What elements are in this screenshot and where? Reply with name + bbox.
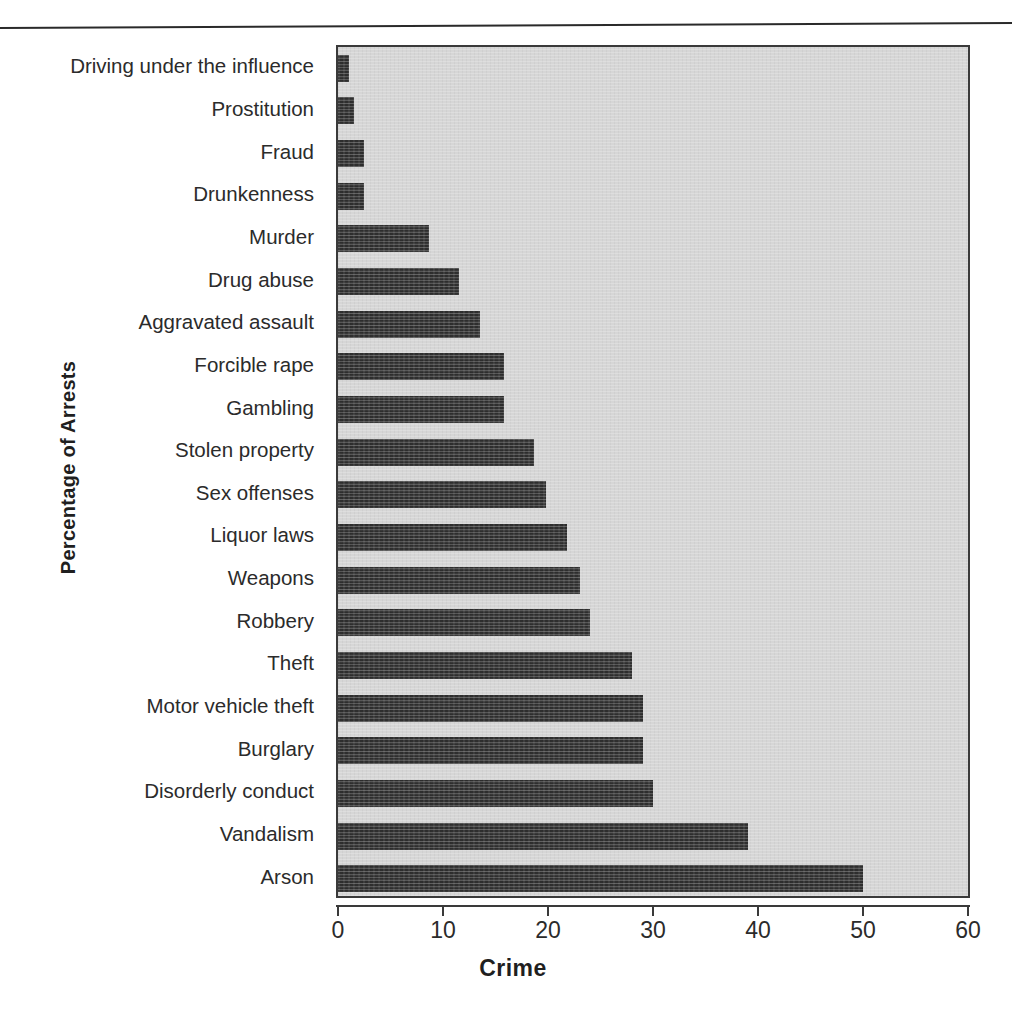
category-label: Sex offenses [196,483,314,504]
bar [338,780,653,807]
x-axis-tick [967,905,969,916]
bar [338,183,364,210]
category-label: Theft [267,653,314,674]
bar [338,439,534,466]
bar [338,97,354,124]
bar [338,353,504,380]
category-label: Drug abuse [208,270,314,291]
category-label: Vandalism [220,824,314,845]
y-axis-title: Percentage of Arrests [57,338,80,598]
category-label: Driving under the influence [70,56,314,77]
bar [338,609,590,636]
bar [338,55,349,82]
category-label: Disorderly conduct [144,781,314,802]
bar [338,268,459,295]
x-axis-tick [652,905,654,916]
x-axis-tick-label: 30 [640,919,666,942]
bar [338,737,643,764]
category-label: Aggravated assault [138,312,314,333]
x-axis-tick-label: 50 [850,919,876,942]
bar [338,225,429,252]
x-axis-tick-label: 20 [535,919,561,942]
x-axis-tick-label: 60 [955,919,981,942]
x-axis-tick [337,905,339,916]
category-label: Gambling [226,398,314,419]
x-axis-tick [862,905,864,916]
category-label: Burglary [238,739,314,760]
plot-area [336,45,970,898]
bar [338,481,546,508]
x-axis-tick [442,905,444,916]
x-axis-title: Crime [0,955,1026,982]
bar [338,524,567,551]
bar [338,652,632,679]
bar [338,695,643,722]
category-label: Forcible rape [194,355,314,376]
x-axis-tick [757,905,759,916]
category-label: Liquor laws [210,525,314,546]
category-label: Stolen property [175,440,314,461]
bar [338,865,863,892]
category-label: Robbery [237,611,315,632]
bar [338,396,504,423]
bar [338,311,480,338]
category-label: Murder [249,227,314,248]
x-axis-tick [547,905,549,916]
category-label: Prostitution [211,99,314,120]
category-label: Arson [260,867,314,888]
category-label: Drunkenness [193,184,314,205]
x-axis-tick-label: 40 [745,919,771,942]
x-axis-tick-label: 0 [332,919,345,942]
category-label: Weapons [228,568,314,589]
bar [338,823,748,850]
bar [338,567,580,594]
category-label: Fraud [260,142,314,163]
bar [338,140,364,167]
category-label: Motor vehicle theft [147,696,315,717]
x-axis-tick-label: 10 [430,919,456,942]
bar-chart-figure: Driving under the influenceProstitutionF… [0,0,1026,1024]
category-axis-labels: Driving under the influenceProstitutionF… [0,45,326,898]
